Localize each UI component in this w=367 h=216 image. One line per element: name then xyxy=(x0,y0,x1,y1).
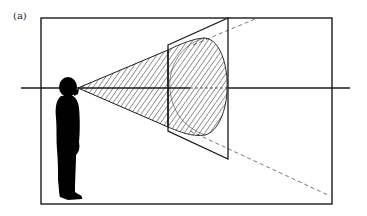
viewer-silhouette xyxy=(56,77,83,200)
perspective-diagram xyxy=(0,0,367,216)
projected-disc xyxy=(168,38,227,135)
